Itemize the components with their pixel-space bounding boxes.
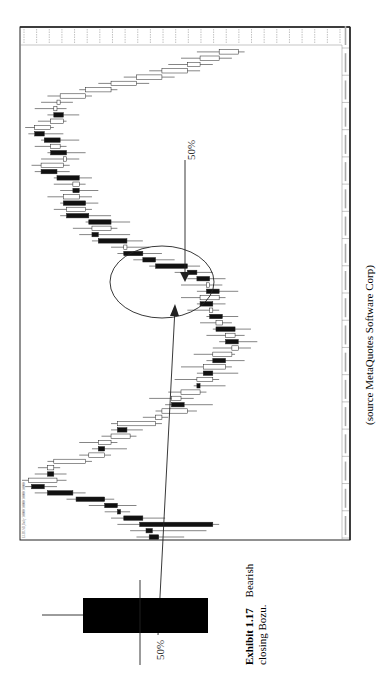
candle-bear (44, 138, 60, 142)
candle-bear (73, 188, 79, 192)
candle-bear (143, 258, 156, 262)
candle-bull (98, 440, 111, 444)
candle-bear (98, 447, 104, 451)
candle-bull (206, 283, 209, 287)
figure-page: EURUSD,Daily 1.0000 1.0000 1.0000 1.0000… (0, 0, 377, 682)
candle-bear (117, 510, 120, 514)
candle-bear (146, 529, 152, 533)
candle-bull (136, 75, 161, 79)
candle-bear (35, 132, 45, 136)
candle-bull (200, 56, 219, 60)
candle-bull (162, 409, 187, 413)
candle-bull (35, 125, 51, 129)
candle-bull (203, 365, 225, 369)
candle-bull (181, 390, 200, 394)
candle-bull (57, 100, 60, 104)
exhibit-label: Exhibit 1.17 (243, 608, 255, 665)
candle-bear (54, 113, 64, 117)
candle-bull (117, 421, 155, 425)
candle-bull (226, 333, 236, 337)
caption-line-1: Exhibit 1.17 Bearish (243, 563, 255, 665)
candle-bull (86, 88, 111, 92)
candle-bear (124, 516, 143, 520)
candle-bear (89, 220, 111, 224)
candle-bull (41, 163, 63, 167)
candle-bull (197, 377, 213, 381)
candle-bear (171, 403, 184, 407)
candle-bull (60, 94, 85, 98)
candle-bull (171, 396, 181, 400)
candle-bear (140, 522, 213, 526)
candle-bull (63, 195, 79, 199)
caption-bearish: Bearish (243, 563, 255, 597)
candle-bear (117, 428, 127, 432)
candle-bear (210, 314, 223, 318)
candle-bull (47, 466, 53, 470)
candle-bear (105, 503, 118, 507)
candle-bull (162, 69, 187, 73)
candle-bear (197, 384, 200, 388)
candle-bull (156, 415, 162, 419)
candle-bull (92, 226, 111, 230)
candle-bull (124, 245, 127, 249)
candle-bull (51, 144, 61, 148)
candle-bear (92, 232, 98, 236)
candle-bear (76, 497, 105, 501)
candle-bear (51, 151, 67, 155)
candle-bear (216, 327, 235, 331)
candle-bull (63, 157, 66, 161)
diagram-50-percent-label: 50% (154, 640, 166, 660)
candle-bear (57, 176, 79, 180)
candlestick-chart: EURUSD,Daily 1.0000 1.0000 1.0000 1.0000… (0, 0, 377, 682)
candle-bull (219, 50, 238, 54)
candle-bear (197, 277, 210, 281)
candle-bear (47, 472, 53, 476)
candle-bull (28, 478, 57, 482)
candle-bull (51, 119, 64, 123)
diagram-bozu-body (83, 598, 208, 633)
candle-bear (67, 214, 89, 218)
candle-bull (111, 434, 130, 438)
candle-bear (41, 169, 57, 173)
candle-bull (54, 459, 86, 463)
candle-bull (89, 453, 105, 457)
candle-bear (32, 484, 45, 488)
candle-bear (226, 340, 239, 344)
candle-bear (149, 535, 159, 539)
candle-bull (54, 106, 57, 110)
candle-bull (187, 62, 200, 66)
chart-50-percent-label: 50% (185, 140, 197, 160)
candle-bull (216, 321, 222, 325)
candle-bear (156, 264, 188, 268)
candle-bull (213, 352, 232, 356)
candle-bear (213, 358, 226, 362)
candle-bull (232, 346, 238, 350)
candle-bear (98, 239, 127, 243)
candle-bull (73, 182, 79, 186)
source-credit: (source MetaQuotes Software Corp) (363, 265, 376, 425)
candle-bull (210, 308, 213, 312)
candle-bear (47, 491, 72, 495)
candle-bear (203, 371, 213, 375)
candle-bear (63, 201, 85, 205)
caption-line-2: closing Bozu. (256, 604, 268, 665)
candle-bull (111, 81, 136, 85)
candle-bull (67, 207, 86, 211)
